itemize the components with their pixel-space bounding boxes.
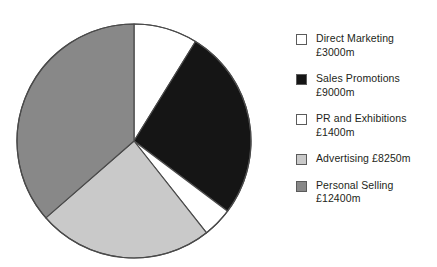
pie-chart-plot-area bbox=[10, 10, 265, 265]
chart-legend: Direct Marketing £3000m Sales Promotions… bbox=[296, 32, 436, 219]
legend-item-advertising[interactable]: Advertising £8250m bbox=[296, 152, 436, 166]
legend-item-direct-marketing[interactable]: Direct Marketing £3000m bbox=[296, 32, 436, 59]
legend-swatch-icon-personal-selling bbox=[296, 181, 307, 192]
legend-label-direct-marketing: Direct Marketing £3000m bbox=[316, 32, 394, 59]
legend-label-advertising: Advertising £8250m bbox=[316, 152, 411, 166]
legend-item-personal-selling[interactable]: Personal Selling £12400m bbox=[296, 179, 436, 206]
legend-swatch-icon-pr-and-exhibitions bbox=[296, 114, 307, 125]
legend-item-sales-promotions[interactable]: Sales Promotions £9000m bbox=[296, 72, 436, 99]
legend-swatch-icon-sales-promotions bbox=[296, 74, 307, 85]
pie-chart-svg bbox=[10, 10, 265, 265]
legend-swatch-icon-advertising bbox=[296, 154, 307, 165]
legend-label-pr-and-exhibitions: PR and Exhibitions £1400m bbox=[316, 112, 407, 139]
legend-swatch-icon-direct-marketing bbox=[296, 34, 307, 45]
legend-item-pr-and-exhibitions[interactable]: PR and Exhibitions £1400m bbox=[296, 112, 436, 139]
legend-label-sales-promotions: Sales Promotions £9000m bbox=[316, 72, 400, 99]
pie-chart-figure: Direct Marketing £3000m Sales Promotions… bbox=[0, 0, 437, 267]
pie-slice-group bbox=[17, 24, 251, 258]
legend-label-personal-selling: Personal Selling £12400m bbox=[316, 179, 393, 206]
